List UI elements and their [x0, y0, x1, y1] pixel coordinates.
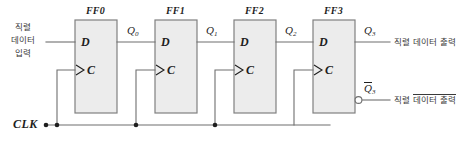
serial-data-input-line3: 입력	[2, 47, 44, 60]
signal-sub-q3: 3	[372, 30, 376, 38]
signal-letter-q0: Q	[127, 24, 135, 36]
pin-label-d-ff0: D	[81, 36, 90, 48]
flipflop-box-ff3	[313, 20, 355, 113]
inverted-serial-data-output-prefix: 직렬	[394, 95, 413, 105]
signal-letter-q3-bar: Q	[364, 83, 372, 94]
serial-data-input-line1: 직렬	[2, 21, 44, 34]
signal-sub-q2: 2	[293, 30, 297, 38]
inversion-bubble-icon	[355, 97, 362, 104]
flipflop-box-ff2	[234, 20, 276, 113]
pin-label-c-ff2: C	[246, 64, 254, 76]
signal-sub-q3-bar: 3	[372, 88, 376, 96]
wire-clock-riser-ff3	[294, 70, 313, 125]
serial-data-output-label: 직렬 데이터 출력	[394, 38, 456, 47]
junction-dot-ff1	[134, 123, 139, 128]
flipflop-box-ff0	[75, 20, 117, 113]
serial-data-output-prefix: 직렬	[394, 37, 413, 47]
flipflop-box-ff1	[155, 20, 197, 113]
clock-label: CLK	[13, 118, 38, 130]
pin-label-c-ff3: C	[325, 64, 333, 76]
serial-data-output-text: 데이터 출력	[413, 37, 456, 47]
wire-clock-riser-ff1	[136, 70, 155, 125]
signal-label-q3: Q3	[364, 25, 375, 38]
wire-clock-riser-ff2	[215, 70, 234, 125]
pin-label-d-ff2: D	[240, 36, 249, 48]
inverted-serial-data-output-text: 데이터 출력	[413, 96, 456, 105]
flipflop-label-ff2: FF2	[245, 6, 264, 16]
inverted-serial-data-output-label: 직렬 데이터 출력	[394, 96, 456, 105]
pin-label-c-ff1: C	[167, 64, 175, 76]
junction-dot-ff2	[213, 123, 218, 128]
wire-clock-riser-ff0	[57, 70, 75, 125]
pin-label-d-ff1: D	[161, 36, 170, 48]
flipflop-label-ff0: FF0	[86, 6, 105, 16]
shift-register-diagram	[0, 0, 473, 141]
junction-dot-clk	[44, 123, 49, 128]
signal-label-q1: Q1	[206, 25, 217, 38]
flipflop-label-ff1: FF1	[166, 6, 185, 16]
serial-data-input-label: 직렬 데이터 입력	[2, 21, 44, 60]
signal-letter-q1: Q	[206, 24, 214, 36]
signal-label-q3-bar: Q3	[364, 83, 375, 96]
signal-sub-q1: 1	[214, 30, 218, 38]
signal-letter-q2: Q	[285, 24, 293, 36]
flipflop-label-ff3: FF3	[324, 6, 343, 16]
serial-data-input-line2: 데이터	[2, 34, 44, 47]
pin-label-c-ff0: C	[87, 64, 95, 76]
signal-label-q0: Q0	[127, 25, 138, 38]
signal-sub-q0: 0	[135, 30, 139, 38]
junction-dot-ff0	[55, 123, 60, 128]
signal-label-q2: Q2	[285, 25, 296, 38]
signal-letter-q3: Q	[364, 24, 372, 36]
pin-label-d-ff3: D	[319, 36, 328, 48]
